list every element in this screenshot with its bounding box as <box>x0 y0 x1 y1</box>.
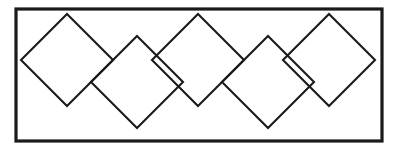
geometric-figure <box>0 0 394 152</box>
figure-canvas <box>0 0 394 152</box>
